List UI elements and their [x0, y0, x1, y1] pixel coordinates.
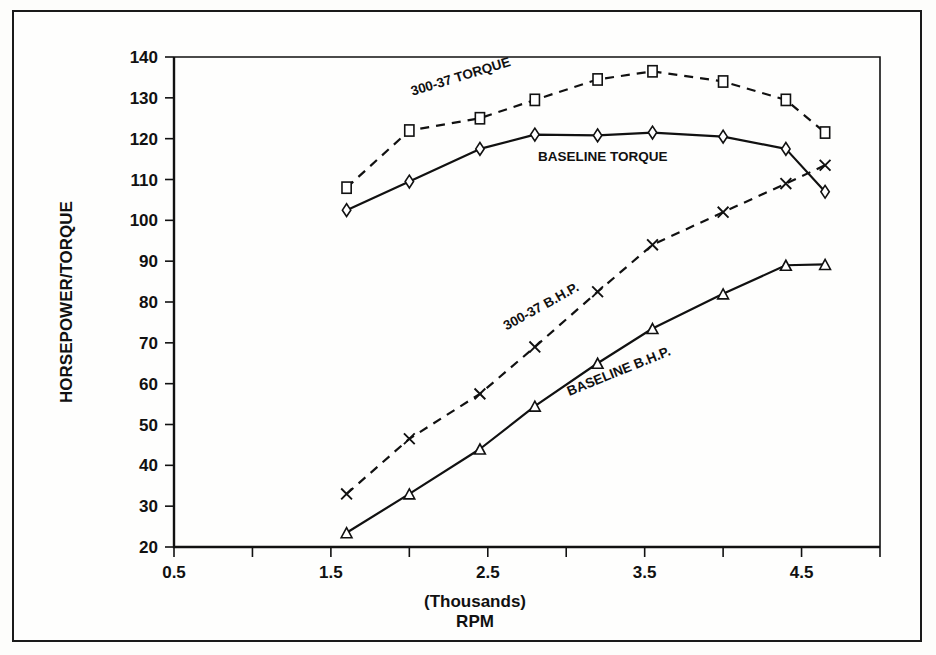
data-point-diamond: [342, 204, 350, 217]
data-point-square: [648, 66, 657, 77]
x-tick-label: 4.5: [790, 563, 814, 582]
data-point-x: [341, 489, 352, 500]
series-1: 300-37 TORQUE: [342, 54, 830, 193]
plot-frame: [174, 57, 880, 547]
y-tick-label: 130: [130, 89, 158, 108]
series-line: [347, 133, 826, 211]
y-axis-title: HORSEPOWER/TORQUE: [57, 201, 76, 403]
data-point-diamond: [593, 129, 601, 142]
data-point-x: [647, 239, 658, 250]
y-tick-label: 110: [131, 171, 158, 190]
x-tick-label: 2.5: [476, 563, 500, 582]
x-tick-label: 1.5: [319, 563, 343, 582]
y-tick-label: 120: [130, 130, 158, 149]
data-point-diamond: [405, 175, 413, 188]
series-line: [347, 264, 826, 532]
series-label: BASELINE B.H.P.: [565, 344, 673, 399]
data-point-square: [593, 74, 602, 85]
x-tick-label: 0.5: [162, 563, 186, 582]
plot-axes: [174, 57, 880, 547]
y-tick-label: 50: [139, 416, 158, 435]
x-axis-title-units: (Thousands): [424, 592, 526, 611]
data-point-x: [404, 433, 415, 444]
data-point-triangle: [718, 289, 729, 299]
chart-canvas: 20304050607080901001101201301400.51.52.5…: [0, 0, 936, 655]
y-tick-label: 90: [139, 252, 158, 271]
data-point-diamond: [719, 130, 727, 143]
x-axis-title: RPM: [456, 612, 494, 631]
data-point-x: [820, 160, 831, 171]
data-point-square: [820, 127, 829, 138]
data-point-x: [718, 207, 729, 218]
x-tick-label: 3.5: [633, 563, 657, 582]
series-2: BASELINE TORQUE: [342, 126, 829, 216]
figure-container: 20304050607080901001101201301400.51.52.5…: [0, 0, 936, 655]
x-axis-ticks: 0.51.52.53.54.5: [162, 547, 880, 582]
y-tick-label: 80: [139, 293, 158, 312]
data-point-x: [529, 342, 540, 353]
series-line: [347, 165, 826, 494]
y-axis-ticks: 2030405060708090100110120130140: [130, 48, 174, 557]
data-point-x: [780, 178, 791, 189]
data-point-x: [475, 388, 486, 399]
data-point-triangle: [647, 324, 658, 334]
y-tick-label: 60: [139, 375, 158, 394]
data-point-square: [405, 125, 414, 136]
series-3: 300-37 B.H.P.: [341, 160, 830, 500]
y-tick-label: 20: [139, 538, 158, 557]
y-tick-label: 70: [139, 334, 158, 353]
y-tick-label: 100: [130, 211, 158, 230]
data-point-square: [719, 76, 728, 87]
data-point-square: [342, 182, 351, 193]
data-point-diamond: [648, 126, 656, 139]
y-tick-label: 30: [139, 497, 158, 516]
data-point-square: [475, 113, 484, 124]
y-tick-label: 140: [130, 48, 158, 67]
y-tick-label: 40: [139, 456, 158, 475]
data-point-diamond: [476, 142, 484, 155]
data-point-x: [592, 286, 603, 297]
series-label: BASELINE TORQUE: [538, 149, 668, 164]
data-point-diamond: [531, 128, 539, 141]
data-point-square: [781, 94, 790, 105]
data-point-square: [530, 94, 539, 105]
series-label: 300-37 B.H.P.: [501, 279, 582, 333]
series-label: 300-37 TORQUE: [409, 54, 512, 99]
